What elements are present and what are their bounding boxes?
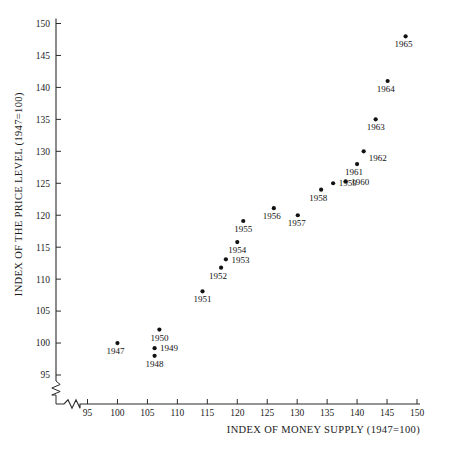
data-point: 1958 [309, 188, 328, 203]
data-point-marker [355, 162, 359, 166]
x-axis-tick-label: 145 [380, 408, 395, 418]
data-point-marker [157, 328, 161, 332]
data-point-label: 1953 [231, 255, 250, 265]
data-point: 1965 [395, 34, 414, 49]
axis-titles-group: INDEX OF MONEY SUPPLY (1947=100)INDEX OF… [13, 92, 420, 436]
y-axis-tick-label: 140 [36, 83, 51, 93]
y-axis-tick-label: 135 [36, 115, 51, 125]
data-point: 1956 [263, 206, 282, 221]
data-point-marker [115, 341, 119, 345]
chart-canvas: 9510010511011512012513013514014515095100… [0, 0, 449, 455]
data-point-marker [224, 257, 228, 261]
data-point-label: 1958 [309, 193, 328, 203]
data-point-label: 1948 [146, 359, 165, 369]
data-point: 1964 [377, 79, 396, 94]
data-point: 1955 [234, 219, 253, 234]
data-point-label: 1965 [395, 39, 414, 49]
y-axis-tick-label: 105 [36, 306, 51, 316]
data-point-marker [219, 266, 223, 270]
y-axis-tick-label: 130 [36, 147, 51, 157]
data-point-label: 1954 [228, 245, 247, 255]
data-point-marker [362, 149, 366, 153]
x-axis-tick-label: 125 [260, 408, 275, 418]
data-point: 1947 [106, 341, 125, 356]
data-point: 1957 [288, 213, 307, 228]
data-point-marker [319, 188, 323, 192]
data-point-label: 1949 [160, 343, 179, 353]
y-axis-title: INDEX OF THE PRICE LEVEL (1947=100) [13, 92, 25, 296]
x-axis-spine [56, 400, 420, 408]
y-axis-tick-label: 100 [36, 338, 51, 348]
data-point-label: 1956 [263, 211, 282, 221]
y-axis-tick-label: 95 [41, 370, 51, 380]
data-point-label: 1950 [150, 333, 169, 343]
data-point-label: 1947 [106, 346, 125, 356]
y-axis-tick-label: 125 [36, 179, 51, 189]
x-axis-tick-label: 120 [230, 408, 245, 418]
y-axis-break-mark [52, 381, 60, 404]
y-axis-tick-label: 115 [36, 243, 50, 253]
y-axis-tick-label: 150 [36, 19, 51, 29]
x-axis-tick-label: 100 [110, 408, 125, 418]
data-point-marker [374, 117, 378, 121]
x-axis-title: INDEX OF MONEY SUPPLY (1947=100) [227, 424, 420, 436]
data-point-marker [296, 213, 300, 217]
x-axis-tick-label: 110 [170, 408, 184, 418]
data-point-marker [404, 34, 408, 38]
data-point: 1963 [367, 117, 386, 132]
tick-labels-group: 9510010511011512012513013514014515095100… [36, 19, 425, 418]
data-point-marker [344, 179, 348, 183]
data-point-marker [331, 181, 335, 185]
data-point: 1953 [224, 255, 250, 265]
data-point: 1950 [150, 328, 169, 343]
x-axis-tick-label: 130 [290, 408, 305, 418]
data-point-label: 1961 [345, 167, 363, 177]
data-point-marker [152, 354, 156, 358]
data-point-marker [241, 219, 245, 223]
x-axis-tick-label: 150 [410, 408, 425, 418]
data-point: 1954 [228, 240, 247, 255]
data-point: 1962 [362, 149, 387, 163]
data-point-marker [235, 240, 239, 244]
x-axis-tick-label: 140 [350, 408, 365, 418]
x-axis-tick-label: 135 [320, 408, 335, 418]
data-point: 1949 [152, 343, 178, 353]
data-point-label: 1962 [369, 153, 387, 163]
x-axis-tick-label: 95 [83, 408, 93, 418]
data-point-label: 1957 [288, 218, 307, 228]
data-point-label: 1960 [351, 177, 370, 187]
y-axis-tick-label: 110 [36, 275, 50, 285]
data-point-marker [200, 289, 204, 293]
data-point: 1951 [194, 289, 212, 304]
data-point-label: 1955 [234, 224, 253, 234]
data-point: 1952 [209, 266, 227, 281]
y-axis-tick-label: 120 [36, 211, 51, 221]
data-point-label: 1951 [194, 294, 212, 304]
y-axis-tick-label: 145 [36, 51, 51, 61]
data-point-marker [386, 79, 390, 83]
data-point: 1948 [146, 354, 165, 369]
data-point-marker [272, 206, 276, 210]
data-point: 1961 [345, 162, 363, 177]
data-point-label: 1952 [209, 271, 227, 281]
x-axis-tick-label: 115 [200, 408, 214, 418]
data-point-label: 1963 [367, 122, 386, 132]
x-axis-tick-label: 105 [140, 408, 155, 418]
data-point-marker [152, 346, 156, 350]
data-points-group: 1947194819491950195119521953195419551956… [106, 34, 413, 369]
data-point-label: 1964 [377, 84, 396, 94]
scatter-plot-figure: 9510010511011512012513013514014515095100… [0, 0, 449, 455]
